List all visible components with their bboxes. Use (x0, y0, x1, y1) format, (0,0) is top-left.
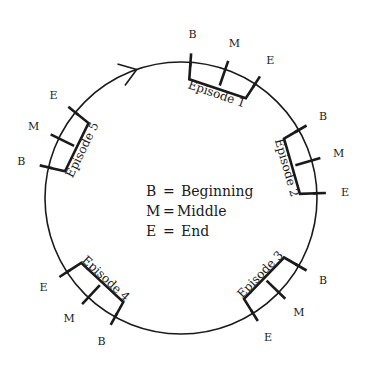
tick-m (220, 61, 228, 86)
direction-arrow-icon (117, 64, 136, 86)
marker-label-e: E (341, 186, 349, 199)
marker-label-m: M (229, 37, 240, 50)
marker-label-b: B (17, 155, 25, 168)
marker-label-m: M (28, 120, 39, 133)
marker-label-e: E (264, 331, 272, 344)
episode-5: BMEEpisode 5 (17, 89, 101, 180)
marker-label-b: B (97, 335, 105, 348)
legend-sep-e: = (163, 223, 175, 239)
legend-key-e: E (146, 223, 156, 239)
marker-label-b: B (319, 274, 327, 287)
marker-label-e: E (50, 89, 58, 102)
episode-1: BMEEpisode 1 (186, 28, 274, 110)
marker-label-m: M (333, 147, 344, 160)
legend-value-middle: Middle (177, 203, 227, 219)
tick-m (295, 158, 320, 165)
marker-label-e: E (266, 54, 274, 67)
episode-label: Episode 1 (186, 78, 247, 111)
tick-m (51, 134, 74, 145)
marker-label-m: M (293, 306, 304, 319)
marker-label-m: M (64, 312, 75, 325)
episode-cycle-diagram: BMEEpisode 1BMEEpisode 2BMEEpisode 3BMEE… (0, 0, 375, 366)
legend-value-end: End (181, 223, 209, 239)
marker-label-b: B (319, 110, 327, 123)
legend-key-b: B (146, 183, 156, 199)
legend-sep-m: = (163, 203, 175, 219)
legend-key-m: M (146, 203, 160, 219)
episode-label: Episode 2 (272, 137, 302, 198)
arrow-stroke (117, 64, 136, 70)
legend-value-beginning: Beginning (181, 183, 254, 199)
legend-sep-b: = (163, 183, 175, 199)
episode-label: Episode 5 (63, 120, 102, 180)
legend: B = Beginning M = Middle E = End (146, 183, 254, 239)
tick-b (190, 53, 191, 66)
tick-b (40, 165, 53, 168)
episode-3: BMEEpisode 3 (234, 248, 327, 344)
marker-label-b: B (188, 28, 196, 41)
marker-label-e: E (39, 281, 47, 294)
episode-4: BMEEpisode 4 (39, 253, 132, 349)
